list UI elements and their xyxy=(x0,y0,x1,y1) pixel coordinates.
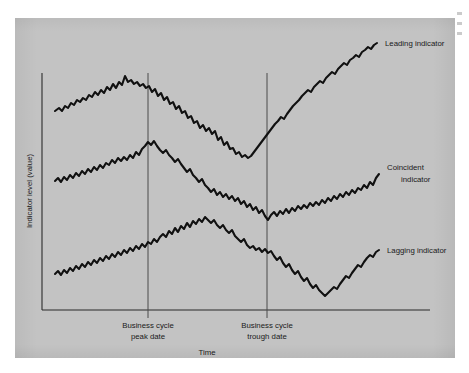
figure-panel: Leading indicator Coincident indicator L… xyxy=(15,18,455,358)
coincident-indicator-label-line2: indicator xyxy=(401,175,431,184)
lagging-indicator-line xyxy=(55,217,379,296)
reference-lines-group xyxy=(148,73,267,318)
lagging-indicator-label: Lagging indicator xyxy=(387,246,447,255)
leading-indicator-line xyxy=(55,43,377,158)
margin-mark xyxy=(457,12,462,15)
peak-date-caption-line2: peak date xyxy=(131,332,165,341)
trough-date-caption-line1: Business cycle xyxy=(241,321,293,330)
trough-date-caption-line2: trough date xyxy=(247,332,286,341)
business-cycle-indicator-chart: Leading indicator Coincident indicator L… xyxy=(15,18,455,358)
margin-mark xyxy=(457,22,462,25)
axes-group xyxy=(42,73,430,310)
y-axis-title: Indicator level (value) xyxy=(25,154,34,229)
coincident-indicator-line xyxy=(55,141,379,220)
leading-indicator-label: Leading indicator xyxy=(385,39,445,48)
coincident-indicator-label-line1: Coincident xyxy=(387,163,425,172)
page-margin-marks xyxy=(457,12,467,52)
x-axis-title: Time xyxy=(198,348,215,357)
margin-mark xyxy=(457,32,462,35)
peak-date-caption-line1: Business cycle xyxy=(122,321,174,330)
